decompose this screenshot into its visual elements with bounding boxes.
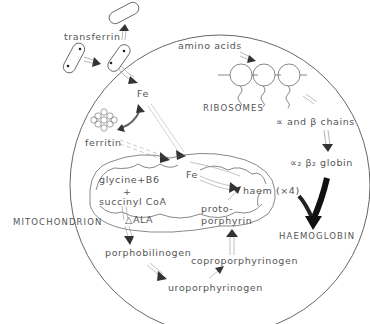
transferrin-molecule-loaded bbox=[61, 41, 87, 75]
label-protoporphyrin-1: proto- bbox=[201, 204, 233, 214]
label-coproporphyrinogen: coproporphyrinogen bbox=[191, 256, 298, 266]
arrow-to-globin bbox=[322, 130, 333, 152]
ribosome-chain bbox=[218, 64, 307, 108]
label-alpha-beta-chains: ∝ and β chains bbox=[276, 117, 355, 127]
label-globin: ∝₂ β₂ globin bbox=[290, 158, 353, 168]
arrow-chains bbox=[303, 94, 317, 104]
label-amino-acids: amino acids bbox=[178, 41, 242, 51]
label-succinyl-coa: succinyl CoA bbox=[99, 197, 167, 207]
arrow-to-protoporphyrin bbox=[226, 229, 238, 255]
label-mitochondrion: MITOCHONDRION bbox=[13, 218, 102, 227]
arrow-to-uroporphyrinogen bbox=[147, 263, 167, 281]
label-glycine-b6: glycine+B6 bbox=[99, 175, 160, 185]
ferritin-icon bbox=[91, 109, 117, 131]
label-transferrin: transferrin bbox=[64, 32, 121, 42]
arrow-to-coproporphyrinogen bbox=[209, 266, 224, 278]
label-ribosomes: RIBOSOMES bbox=[203, 104, 264, 113]
label-uroporphyrinogen: uroporphyrinogen bbox=[168, 283, 263, 293]
label-fe-mitochondrion: Fe bbox=[186, 170, 198, 180]
label-ferritin: ferritin bbox=[85, 138, 122, 148]
label-ala: △ALA bbox=[125, 215, 153, 225]
label-protoporphyrin-2: porphyrin bbox=[201, 216, 252, 226]
arrow-amino-acids bbox=[240, 52, 256, 63]
label-haemoglobin: HAEMOGLOBIN bbox=[279, 232, 355, 241]
label-haem: haem (×4) bbox=[243, 186, 300, 196]
transferrin-molecule-free bbox=[107, 0, 141, 26]
arrow-fe-to-haem bbox=[200, 176, 238, 193]
arrow-haemoglobin bbox=[299, 178, 327, 230]
arrow-to-fe bbox=[118, 66, 138, 84]
label-porphobilinogen: porphobilinogen bbox=[105, 248, 191, 258]
label-fe-cytoplasm: Fe bbox=[137, 89, 149, 99]
arrow-fe-ferritin bbox=[117, 104, 145, 132]
arrow-fe-to-mito bbox=[148, 104, 184, 154]
arrow-transferrin-bind bbox=[84, 57, 101, 67]
